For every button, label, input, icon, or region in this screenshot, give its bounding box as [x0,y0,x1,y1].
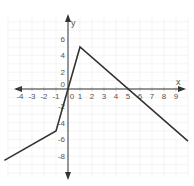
x-axis-label: x [176,77,181,87]
x-tick-label: 5 [126,92,131,101]
x-tick-label: 7 [150,92,155,101]
x-tick-label: 2 [90,92,95,101]
x-tick-label: -1 [52,92,60,101]
y-axis-label: y [71,18,76,28]
x-tick-label: -4 [16,92,24,101]
y-tick-label: 6 [61,35,66,44]
x-tick-label: -2 [40,92,48,101]
x-tick-label: 1 [78,92,83,101]
y-tick-label: -8 [58,152,66,161]
y-tick-label: -6 [58,135,66,144]
x-tick-label: 0 [70,92,75,101]
y-tick-label: 0 [61,80,66,89]
x-tick-label: 9 [174,92,179,101]
x-tick-label: 4 [114,92,119,101]
x-tick-labels: -4-3-2-10123456789 [16,88,178,102]
x-tick-label: -3 [28,92,36,101]
function-graph: -4-3-2-10123456789 6420-2-4-6-8 x y [0,0,194,186]
y-tick-label: 4 [61,51,66,60]
y-tick-label: 2 [61,68,66,77]
x-tick-label: 3 [102,92,107,101]
arrow-down-icon [65,172,71,180]
x-tick-label: 8 [162,92,167,101]
